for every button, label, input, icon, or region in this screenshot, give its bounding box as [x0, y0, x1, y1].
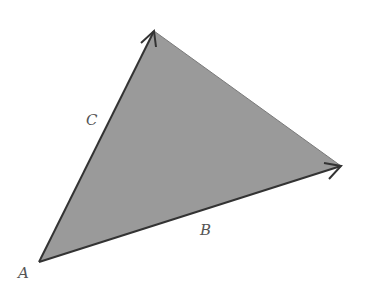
label-c: C	[86, 111, 98, 129]
vector-triangle-diagram: A C B	[0, 0, 368, 288]
triangle-fill	[39, 31, 341, 262]
label-a: A	[16, 264, 29, 282]
label-b: B	[199, 221, 211, 239]
